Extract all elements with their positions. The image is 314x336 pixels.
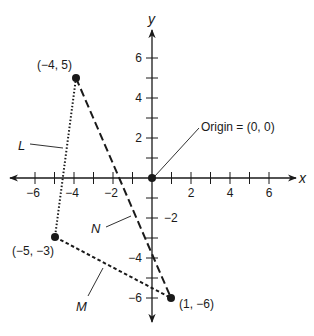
leader-m bbox=[88, 268, 103, 296]
point-a-marker bbox=[72, 74, 80, 82]
origin-marker bbox=[148, 174, 156, 182]
point-labels: (−4, 5) (−5, −3) (1, −6) Origin = (0, 0) bbox=[12, 58, 275, 311]
point-c-marker bbox=[167, 294, 175, 302]
x-tick-label: 4 bbox=[227, 186, 234, 200]
x-axis-label: x bbox=[298, 170, 307, 186]
segment-n-label: N bbox=[91, 221, 101, 236]
leader-l bbox=[30, 144, 63, 148]
x-tick-label: −4 bbox=[65, 186, 79, 200]
origin-label: Origin = (0, 0) bbox=[201, 120, 275, 134]
coordinate-plane-diagram: x y −6 −4 −2 2 4 6 6 4 2 −2 −4 −6 bbox=[0, 0, 314, 336]
x-tick-label: −6 bbox=[26, 186, 40, 200]
segment-l bbox=[55, 78, 76, 237]
y-tick-label: 4 bbox=[135, 91, 142, 105]
point-b-marker bbox=[51, 233, 59, 241]
point-c-label: (1, −6) bbox=[179, 297, 214, 311]
leader-origin bbox=[155, 128, 199, 176]
y-tick-label: −2 bbox=[164, 211, 178, 225]
segment-n bbox=[76, 78, 171, 298]
y-tick-label: 2 bbox=[135, 131, 142, 145]
point-a-label: (−4, 5) bbox=[37, 58, 72, 72]
y-tick-label: −6 bbox=[128, 291, 142, 305]
y-tick-label: −4 bbox=[128, 251, 142, 265]
x-tick-label: 2 bbox=[188, 186, 195, 200]
x-tick-label: −2 bbox=[104, 186, 118, 200]
segment-l-label: L bbox=[18, 138, 25, 153]
leader-n bbox=[106, 216, 131, 227]
point-b-label: (−5, −3) bbox=[12, 244, 54, 258]
y-tick-label: 6 bbox=[135, 51, 142, 65]
y-axis-label: y bbox=[147, 11, 156, 27]
x-tick-label: 6 bbox=[266, 186, 273, 200]
segment-m bbox=[55, 237, 171, 298]
segment-m-label: M bbox=[76, 299, 87, 314]
segment-labels: L M N bbox=[18, 138, 101, 314]
